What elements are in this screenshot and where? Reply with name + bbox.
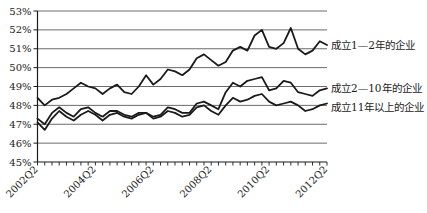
y-tick-label: 46% (9, 138, 31, 149)
y-tick-label: 47% (9, 119, 31, 130)
x-tick-label: 2002Q2 (4, 164, 40, 200)
series-label-firms-11plus-years: 成立11年以上的企业 (331, 101, 424, 113)
series-line-0 (38, 28, 328, 105)
x-tick-label: 2004Q2 (62, 164, 98, 200)
series-label-firms-2-10-years: 成立2—10年的企业 (331, 82, 422, 94)
y-tick-label: 52% (9, 24, 31, 35)
y-tick-label: 49% (9, 81, 31, 92)
x-tick-label: 2010Q2 (235, 164, 271, 200)
series-label-firms-1-2-years: 成立1—2年的企业 (331, 39, 415, 51)
y-tick-label: 50% (9, 62, 31, 73)
x-tick-label: 2012Q2 (293, 164, 329, 200)
line-chart: 45%46%47%48%49%50%51%52%53%2002Q22004Q22… (0, 0, 427, 213)
x-tick-label: 2008Q2 (178, 164, 214, 200)
y-tick-label: 45% (9, 157, 31, 168)
y-tick-label: 51% (9, 43, 31, 54)
x-tick-label: 2006Q2 (120, 164, 156, 200)
y-tick-label: 53% (9, 6, 31, 17)
y-tick-label: 48% (9, 100, 31, 111)
